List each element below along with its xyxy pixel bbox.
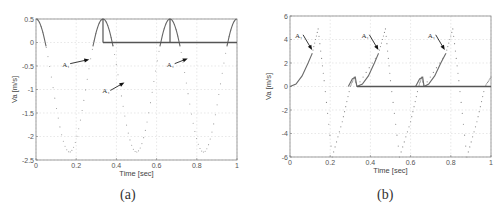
y-tick-label: 2	[284, 60, 288, 67]
chart-b-plot: 00.20.40.60.816420-2-4-6Time [sec]Va [m/…	[252, 0, 504, 214]
x-tick-label: 1	[489, 159, 493, 166]
x-tick-label: 1	[235, 162, 239, 169]
y-tick-label: -4	[282, 130, 288, 137]
x-tick-label: 0.6	[406, 159, 416, 166]
arrow-head-icon	[374, 45, 378, 50]
arrow-head-icon	[84, 59, 89, 63]
x-axis-label: Time [sec]	[119, 169, 153, 178]
x-tick-label: 0.6	[152, 162, 162, 169]
series-dotted	[35, 18, 236, 152]
grid	[36, 19, 237, 160]
series-solid	[416, 77, 425, 86]
y-tick-label: 6	[284, 13, 288, 20]
annotation-arrow	[303, 35, 311, 48]
caption-a: (a)	[120, 187, 136, 203]
series-dotted	[312, 28, 492, 157]
y-tick-label: -6	[282, 154, 288, 161]
y-tick-label: 0	[284, 83, 288, 90]
arrow-head-icon	[119, 82, 124, 86]
annotation-arrow	[70, 60, 86, 64]
y-tick-label: -1	[28, 86, 34, 93]
plot-frame	[36, 19, 237, 160]
annotation-label: A₁	[428, 32, 436, 40]
y-tick-label: -1.5	[22, 110, 34, 117]
arrow-head-icon	[182, 58, 187, 62]
y-tick-label: -2	[28, 133, 34, 140]
x-tick-label: 0.8	[446, 159, 456, 166]
chart-a-plot: 00.20.40.60.810.50-0.5-1-1.5-2-2.5Time […	[0, 0, 250, 214]
x-axis-label: Time [sec]	[373, 166, 407, 175]
x-tick-label: 0.4	[366, 159, 376, 166]
x-tick-label: 0.8	[192, 162, 202, 169]
annotation-label: A₁	[295, 32, 303, 40]
x-tick-label: 0	[288, 159, 292, 166]
y-tick-label: -2	[282, 107, 288, 114]
arrow-head-icon	[308, 45, 312, 50]
arrow-head-icon	[440, 45, 444, 50]
chart-panel-a: 00.20.40.60.810.50-0.5-1-1.5-2-2.5Time […	[0, 0, 250, 214]
series-solid	[290, 54, 312, 87]
x-tick-label: 0	[34, 162, 38, 169]
x-tick-label: 0.2	[71, 162, 81, 169]
y-axis-label: Va [m/s]	[10, 76, 19, 103]
chart-panel-b: 00.20.40.60.816420-2-4-6Time [sec]Va [m/…	[252, 0, 504, 214]
annotation-arrow	[436, 35, 444, 48]
annotation-label: A₁	[361, 32, 369, 40]
annotation-label: A₁	[167, 61, 175, 69]
annotation-label: A₁	[102, 87, 110, 95]
x-tick-label: 0.2	[325, 159, 335, 166]
annotation-label: A₁	[62, 61, 70, 69]
y-tick-label: 0	[30, 39, 34, 46]
series-solid	[348, 77, 357, 86]
x-tick-label: 0.4	[112, 162, 122, 169]
y-tick-label: 4	[284, 36, 288, 43]
y-tick-label: -2.5	[22, 157, 34, 164]
y-axis-label: Va [m/s]	[264, 73, 273, 100]
y-tick-label: -0.5	[22, 63, 34, 70]
y-tick-label: 0.5	[24, 16, 34, 23]
caption-b: (b)	[377, 187, 393, 203]
